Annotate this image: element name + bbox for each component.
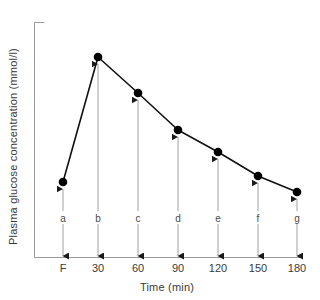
- point-label-d: d: [175, 213, 181, 224]
- y-axis-title: Plasma glucose concentration (mmol/l): [7, 48, 19, 245]
- chart-content-layer: abcdefgF306090120150180: [57, 53, 306, 274]
- x-tick-label-90: 90: [172, 262, 184, 274]
- data-point-g: [293, 188, 302, 197]
- point-label-a: a: [60, 213, 66, 224]
- data-point-f: [254, 172, 263, 181]
- data-point-a: [59, 178, 68, 187]
- point-label-g: g: [294, 213, 300, 224]
- x-tick-label-60: 60: [132, 262, 144, 274]
- x-tick-label-30: 30: [92, 262, 104, 274]
- x-axis-title: Time (min): [140, 281, 194, 293]
- data-point-b: [94, 53, 103, 62]
- x-tick-label-150: 150: [249, 262, 267, 274]
- glucose-line-chart: Plasma glucose concentration (mmol/l) Ti…: [0, 0, 320, 300]
- x-tick-label-F: F: [60, 262, 67, 274]
- data-point-e: [214, 148, 223, 157]
- data-point-d: [174, 126, 183, 135]
- point-label-c: c: [136, 213, 141, 224]
- chart-figure: Plasma glucose concentration (mmol/l) Ti…: [0, 0, 320, 300]
- point-label-e: e: [215, 213, 221, 224]
- x-tick-label-180: 180: [288, 262, 306, 274]
- data-point-c: [134, 89, 143, 98]
- x-tick-label-120: 120: [209, 262, 227, 274]
- point-label-b: b: [95, 213, 101, 224]
- point-label-f: f: [257, 213, 260, 224]
